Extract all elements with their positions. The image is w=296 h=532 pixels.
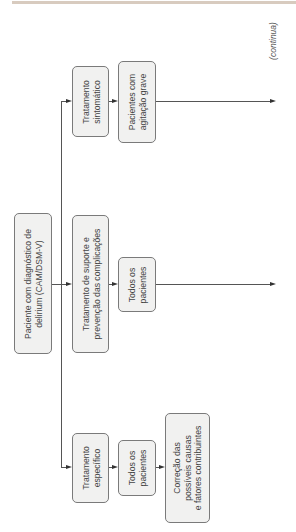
node-root-text: Paciente com diagnóstico de delirium (CA…: [23, 229, 44, 339]
node-support-text: Tratamento de suporte e prevenção das co…: [80, 229, 101, 340]
arrow-head-icon: [270, 282, 276, 286]
connector-continue-support: [156, 284, 270, 285]
node-correction-causes: Correção das possíveis causas e fatores …: [165, 413, 210, 523]
node-all-patients-support: Todos os pacientes: [118, 257, 156, 312]
connector-continue-symptomatic: [156, 101, 270, 102]
node-all-patients-specific-text: Todos os pacientes: [127, 450, 148, 487]
node-specific-treatment: Tratamento específico: [72, 433, 109, 503]
arrow-head-icon: [270, 99, 276, 103]
node-symptomatic-treatment: Tratamento sintomático: [72, 66, 109, 137]
top-rule: [12, 1, 296, 4]
node-all-patients-support-text: Todos os pacientes: [127, 266, 148, 303]
node-all-patients-specific: Todos os pacientes: [118, 440, 156, 496]
connector-root-trunk: [52, 284, 61, 285]
node-symptomatic-text: Tratamento sintomático: [80, 80, 101, 124]
node-severe-agitation-patients: Pacientes com agitação grave: [118, 61, 156, 143]
node-support-treatment: Tratamento de suporte e prevenção das co…: [72, 215, 109, 353]
node-correction-text: Correção das possíveis causas e fatores …: [172, 426, 204, 511]
node-root-diagnosis: Paciente com diagnóstico de delirium (CA…: [14, 213, 52, 354]
node-specific-text: Tratamento específico: [80, 446, 101, 490]
continuation-label: (continua): [268, 22, 278, 60]
node-severe-agitation-text: Pacientes com agitação grave: [127, 74, 148, 130]
